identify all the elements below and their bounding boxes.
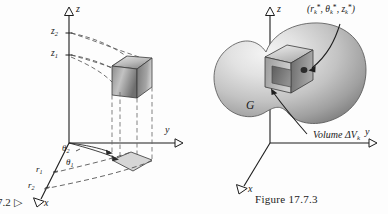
x-axis-label-right: x: [248, 184, 252, 194]
x-axis-right: [237, 143, 271, 194]
z-axis-left: [65, 7, 74, 143]
z1-sub: 1: [55, 52, 58, 59]
cube-solid-left: [112, 56, 152, 98]
z2-sub: 2: [55, 30, 58, 37]
y-axis-label-right: y: [365, 127, 369, 137]
theta2-sub: 2: [66, 148, 69, 154]
volume-sub: k: [357, 134, 360, 141]
figure-right-drawing: [194, 0, 388, 214]
z2-tick-label: z2: [51, 27, 58, 37]
figure-page: z y x z2 z1 r1 r2 θ2 θ1: [0, 0, 388, 214]
cropped-figure-reference: 7.2 ▷: [0, 196, 22, 209]
paren-close: ): [352, 4, 355, 14]
volume-symbol: ΔV: [345, 129, 357, 140]
x-axis-label-left: x: [44, 198, 48, 208]
angle-leader-ticks-left: [76, 149, 80, 151]
z1-tick-label: z1: [51, 49, 58, 59]
r1-sub: 1: [40, 169, 43, 175]
theta1-sub: 1: [70, 162, 73, 168]
theta2-label: θ2: [62, 144, 69, 154]
z-axis-label-right: z: [277, 4, 281, 14]
volume-word: Volume: [313, 129, 342, 140]
angle-arrowheads-left: [106, 150, 119, 162]
radius-leader-ticks-left: [45, 171, 58, 188]
z-axis-label-left: z: [76, 4, 80, 14]
figure-right-solid-G: z y x G (rk*, θk*, zk*) Volume ΔVk Figur…: [194, 0, 388, 214]
y-axis-label-left: y: [165, 125, 169, 135]
sample-point-label: (rk*, θk*, zk*): [307, 4, 355, 15]
volume-element-label: Volume ΔVk: [313, 130, 360, 141]
solid-label-G: G: [246, 100, 254, 112]
r1-label: r1: [36, 165, 43, 175]
r2-label: r2: [28, 181, 35, 191]
figure-caption: Figure 17.7.3: [255, 193, 318, 205]
r2-sub: 2: [32, 185, 35, 191]
figure-left-cylindrical-wedge: z y x z2 z1 r1 r2 θ2 θ1: [0, 0, 194, 214]
angle-rays-left: [69, 143, 116, 158]
theta1-label: θ1: [66, 158, 73, 168]
